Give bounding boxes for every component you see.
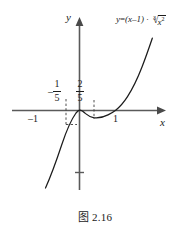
x-tick-label-negative-one: –1	[28, 114, 38, 124]
figure-caption: 图 2.16	[0, 208, 190, 224]
radical-index: 3	[153, 15, 156, 21]
function-curve	[46, 38, 153, 188]
annotation-negative-one-fifth: – 1 5	[48, 79, 61, 103]
equation-multiplication-dot: ·	[146, 14, 149, 24]
y-axis-arrowhead	[76, 17, 84, 26]
x-tick-label-one: 1	[113, 114, 118, 124]
cube-root-radical: 3 √ x2	[151, 14, 166, 26]
y-axis	[75, 17, 84, 190]
annotation-two-fifths: 2 5	[76, 79, 84, 103]
equation-linear-factor: (x–1)	[125, 14, 144, 24]
x-axis-label: x	[160, 117, 165, 128]
figure-container: y x –1 1 – 1 5 2 5 y = (x–1) · 3 √ x2	[0, 0, 190, 232]
fraction-denominator: 5	[77, 93, 84, 104]
y-axis-label: y	[66, 12, 71, 23]
radicand-exponent: 2	[162, 16, 165, 22]
fraction-denominator: 5	[54, 93, 61, 104]
fraction: 1 5	[53, 79, 61, 103]
radicand-group: x2	[158, 15, 166, 27]
fraction: 2 5	[76, 79, 84, 103]
function-plot	[0, 0, 190, 205]
fraction-numerator: 2	[77, 79, 84, 90]
x-axis-arrowhead	[157, 107, 166, 115]
function-equation-label: y = (x–1) · 3 √ x2	[116, 14, 166, 26]
fraction-numerator: 1	[54, 79, 61, 90]
